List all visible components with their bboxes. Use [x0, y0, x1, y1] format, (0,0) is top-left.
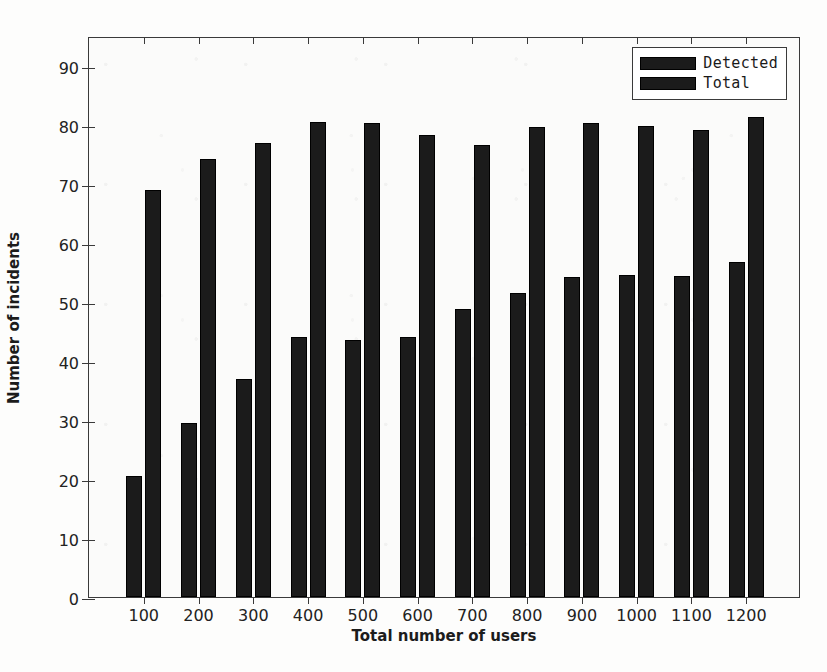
y-tick-label: 0 — [69, 590, 79, 609]
bar-total-1100 — [693, 130, 709, 597]
x-tick-mark-top — [253, 38, 254, 44]
bar-detected-500 — [345, 340, 361, 597]
x-tick-mark — [637, 597, 638, 604]
y-tick-mark-inner — [89, 304, 95, 305]
y-tick-mark — [82, 68, 89, 69]
y-tick-mark — [82, 245, 89, 246]
y-tick-mark-inner — [89, 186, 95, 187]
x-tick-label: 500 — [348, 606, 379, 625]
y-axis-title: Number of incidents — [5, 232, 23, 404]
y-tick-label: 60 — [59, 235, 79, 254]
bar-total-300 — [255, 143, 271, 597]
bar-total-200 — [200, 159, 216, 597]
x-tick-mark-top — [199, 38, 200, 44]
x-tick-label: 200 — [183, 606, 214, 625]
x-tick-label: 1200 — [726, 606, 767, 625]
bar-detected-1200 — [729, 262, 745, 597]
x-tick-mark — [691, 597, 692, 604]
bar-detected-200 — [181, 423, 197, 597]
bar-total-800 — [529, 127, 545, 597]
x-tick-label: 400 — [293, 606, 324, 625]
bar-detected-600 — [400, 337, 416, 597]
y-tick-mark — [82, 304, 89, 305]
y-tick-mark-inner — [89, 363, 95, 364]
x-tick-label: 300 — [238, 606, 269, 625]
y-tick-mark — [82, 127, 89, 128]
bar-detected-400 — [291, 337, 307, 597]
figure-canvas: 0102030405060708090 10020030040050060070… — [0, 0, 827, 672]
y-tick-mark-inner — [89, 68, 95, 69]
bar-detected-300 — [236, 379, 252, 597]
bar-total-900 — [583, 123, 599, 597]
x-tick-label: 600 — [402, 606, 433, 625]
bar-total-1200 — [748, 117, 764, 597]
bar-total-600 — [419, 135, 435, 597]
y-tick-mark — [82, 599, 89, 600]
bar-total-100 — [145, 190, 161, 597]
bar-detected-1100 — [674, 276, 690, 597]
y-tick-mark-inner — [89, 481, 95, 482]
y-tick-label: 70 — [59, 176, 79, 195]
y-tick-mark — [82, 186, 89, 187]
x-tick-mark — [746, 597, 747, 604]
x-tick-label: 100 — [128, 606, 159, 625]
y-tick-mark-inner — [89, 422, 95, 423]
x-tick-mark — [418, 597, 419, 604]
x-axis-title: Total number of users — [352, 627, 537, 645]
x-tick-mark — [363, 597, 364, 604]
bar-total-1000 — [638, 126, 654, 597]
x-tick-label: 800 — [512, 606, 543, 625]
legend-label-total: Total — [703, 74, 750, 92]
x-tick-mark-top — [527, 38, 528, 44]
x-tick-mark-top — [582, 38, 583, 44]
bar-detected-1000 — [619, 275, 635, 597]
x-tick-mark — [253, 597, 254, 604]
x-tick-mark-top — [472, 38, 473, 44]
y-tick-label: 40 — [59, 353, 79, 372]
x-tick-label: 1000 — [616, 606, 657, 625]
y-tick-label: 50 — [59, 294, 79, 313]
y-tick-label: 30 — [59, 412, 79, 431]
y-tick-mark-inner — [89, 540, 95, 541]
bar-total-500 — [364, 123, 380, 597]
legend-item-total: Total — [640, 73, 778, 93]
legend-swatch-total — [640, 77, 696, 90]
y-tick-mark-inner — [89, 599, 95, 600]
x-tick-label: 700 — [457, 606, 488, 625]
x-tick-mark — [472, 597, 473, 604]
x-tick-mark-top — [144, 38, 145, 44]
x-tick-mark — [527, 597, 528, 604]
x-tick-label: 1100 — [671, 606, 712, 625]
y-tick-mark-inner — [89, 245, 95, 246]
x-tick-mark-top — [691, 38, 692, 44]
x-tick-mark-top — [746, 38, 747, 44]
y-tick-label: 90 — [59, 58, 79, 77]
x-tick-mark-top — [363, 38, 364, 44]
plot-area: 0102030405060708090 10020030040050060070… — [88, 37, 800, 598]
bar-total-700 — [474, 145, 490, 597]
y-tick-label: 80 — [59, 117, 79, 136]
bar-detected-700 — [455, 309, 471, 597]
y-tick-mark — [82, 363, 89, 364]
bar-detected-800 — [510, 293, 526, 597]
bar-detected-100 — [126, 476, 142, 597]
x-tick-mark — [582, 597, 583, 604]
x-tick-label: 900 — [567, 606, 598, 625]
y-tick-mark — [82, 540, 89, 541]
y-tick-mark — [82, 481, 89, 482]
x-tick-mark-top — [308, 38, 309, 44]
x-tick-mark-top — [637, 38, 638, 44]
x-tick-mark — [308, 597, 309, 604]
bar-total-400 — [310, 122, 326, 597]
x-tick-mark — [199, 597, 200, 604]
legend-swatch-detected — [640, 57, 696, 70]
legend-item-detected: Detected — [640, 53, 778, 73]
x-tick-mark — [144, 597, 145, 604]
legend-label-detected: Detected — [703, 54, 778, 72]
chart-legend: Detected Total — [632, 47, 787, 100]
y-tick-label: 10 — [59, 530, 79, 549]
y-tick-mark-inner — [89, 127, 95, 128]
y-tick-mark — [82, 422, 89, 423]
x-tick-mark-top — [418, 38, 419, 44]
bar-detected-900 — [564, 277, 580, 597]
